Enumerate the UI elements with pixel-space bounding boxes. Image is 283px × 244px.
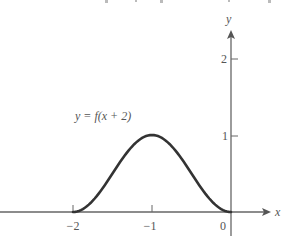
x-tick-label-neg1: −1 xyxy=(144,219,157,233)
clipped-text-fragments xyxy=(105,0,271,3)
x-tick-label-0: 0 xyxy=(220,219,226,233)
x-tick-label-neg2: −2 xyxy=(67,219,80,233)
function-plot: x y −2 −1 0 1 2 y = f(x + 2) xyxy=(0,0,283,244)
y-tick-label-2: 2 xyxy=(221,52,227,66)
curve-annotation: y = f(x + 2) xyxy=(74,109,131,123)
y-axis-label: y xyxy=(225,12,232,26)
y-tick-label-1: 1 xyxy=(222,129,228,143)
function-curve xyxy=(73,135,231,212)
x-axis-label: x xyxy=(274,205,281,219)
